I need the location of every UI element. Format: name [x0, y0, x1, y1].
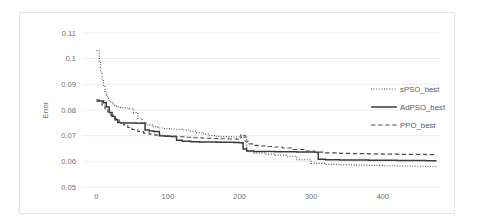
series-lines	[96, 50, 436, 166]
x-axis-tick-labels: 0100200300400	[94, 192, 389, 201]
y-tick-label: 0.09	[61, 80, 76, 89]
x-tick-label: 100	[162, 192, 175, 201]
y-tick-label: 0.06	[61, 157, 76, 166]
chart-legend: sPSO_bestAdPSO_bestPPO_best	[371, 85, 446, 130]
x-tick-label: 300	[305, 192, 318, 201]
y-axis-title: Error	[41, 101, 50, 118]
y-axis-tick-labels: 0.050.060.070.080.090.10.11	[61, 29, 76, 192]
x-tick-label: 400	[376, 192, 389, 201]
y-tick-label: 0.11	[62, 29, 76, 38]
line-chart: 0.050.060.070.080.090.10.11 010020030040…	[0, 0, 477, 224]
legend-label-sPSO_best: sPSO_best	[400, 85, 440, 94]
x-tick-label: 0	[94, 192, 98, 201]
y-tick-label: 0.05	[61, 183, 76, 192]
series-sPSO_best	[96, 50, 436, 166]
gridlines	[82, 33, 440, 187]
y-tick-label: 0.08	[61, 106, 76, 115]
y-tick-label: 0.07	[61, 131, 76, 140]
legend-label-PPO_best: PPO_best	[400, 121, 436, 130]
y-tick-label: 0.1	[65, 54, 76, 63]
legend-label-AdPSO_best: AdPSO_best	[400, 103, 446, 112]
x-tick-label: 200	[233, 192, 246, 201]
series-PPO_best	[96, 100, 436, 155]
y-axis-title-text: Error	[41, 101, 50, 118]
